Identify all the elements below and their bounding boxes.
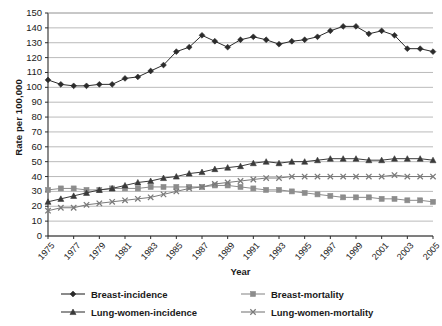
data-point-marker-diamond xyxy=(417,46,423,52)
data-point-marker-square xyxy=(174,184,179,189)
legend-label: Lung-women-incidence xyxy=(91,307,197,318)
series-lung-women-mortality xyxy=(45,172,435,213)
data-point-marker-square xyxy=(379,196,384,201)
data-point-marker-square xyxy=(161,184,166,189)
data-point-marker-diamond xyxy=(84,83,90,89)
data-point-marker-diamond xyxy=(430,49,436,55)
data-point-marker-square xyxy=(289,189,294,194)
x-axis-title: Year xyxy=(48,266,433,277)
data-point-marker-diamond xyxy=(353,23,359,29)
series-lung-women-incidence xyxy=(45,156,436,205)
data-point-marker-square xyxy=(341,195,346,200)
legend-item-lung-women-mortality[interactable]: Lung-women-mortality xyxy=(240,306,420,318)
data-point-marker-diamond xyxy=(122,76,128,82)
data-point-marker-diamond xyxy=(340,23,346,29)
data-point-marker-diamond xyxy=(225,44,231,50)
legend-marker-x-icon xyxy=(240,306,266,318)
data-point-marker-diamond xyxy=(96,81,102,87)
series-breast-mortality xyxy=(46,183,436,204)
data-point-marker-square xyxy=(302,190,307,195)
plot-area xyxy=(0,0,442,326)
data-point-marker-square xyxy=(148,184,153,189)
data-point-marker-square xyxy=(405,198,410,203)
data-point-marker-diamond xyxy=(327,28,333,34)
data-point-marker-diamond xyxy=(212,38,218,44)
data-point-marker-square xyxy=(328,193,333,198)
data-point-marker-diamond xyxy=(289,38,295,44)
legend-marker-triangle-icon xyxy=(60,306,86,318)
data-point-marker-diamond xyxy=(379,28,385,34)
series-line xyxy=(48,26,433,85)
data-point-marker-diamond xyxy=(58,81,64,87)
chart-container: Rate per 100,000 15014013012011010090807… xyxy=(0,0,442,326)
legend-item-lung-women-incidence[interactable]: Lung-women-incidence xyxy=(60,306,240,318)
data-point-marker-square xyxy=(71,186,76,191)
data-point-marker-diamond xyxy=(263,37,269,43)
series-breast-incidence xyxy=(45,23,436,88)
data-point-marker-square xyxy=(366,195,371,200)
legend-item-breast-incidence[interactable]: Breast-incidence xyxy=(60,288,240,300)
data-point-marker-diamond xyxy=(250,34,256,40)
chart-legend: Breast-incidence Breast-mortality Lung-w… xyxy=(60,288,420,318)
data-point-marker-square xyxy=(431,199,436,204)
data-point-marker-square xyxy=(392,196,397,201)
data-point-marker-square xyxy=(251,292,256,297)
data-point-marker-square xyxy=(264,187,269,192)
data-point-marker-square xyxy=(277,187,282,192)
data-point-marker-diamond xyxy=(148,68,154,74)
data-point-marker-square xyxy=(315,192,320,197)
data-point-marker-diamond xyxy=(71,83,77,89)
legend-label: Breast-incidence xyxy=(91,289,168,300)
data-point-marker-diamond xyxy=(366,31,372,37)
data-point-marker-square xyxy=(251,186,256,191)
legend-label: Lung-women-mortality xyxy=(271,307,373,318)
data-point-marker-square xyxy=(46,187,51,192)
legend-label: Breast-mortality xyxy=(271,289,344,300)
legend-item-breast-mortality[interactable]: Breast-mortality xyxy=(240,288,420,300)
data-point-marker-diamond xyxy=(45,77,51,83)
data-point-marker-square xyxy=(135,186,140,191)
data-point-marker-diamond xyxy=(238,37,244,43)
data-point-marker-diamond xyxy=(276,41,282,47)
data-point-marker-diamond xyxy=(135,74,141,80)
data-point-marker-diamond xyxy=(302,37,308,43)
data-point-marker-diamond xyxy=(70,291,76,297)
data-point-marker-diamond xyxy=(109,81,115,87)
data-point-marker-square xyxy=(238,184,243,189)
data-point-marker-square xyxy=(58,186,63,191)
legend-marker-diamond-icon xyxy=(60,288,86,300)
data-point-marker-square xyxy=(418,198,423,203)
legend-marker-square-icon xyxy=(240,288,266,300)
data-point-marker-diamond xyxy=(315,34,321,40)
data-point-marker-square xyxy=(354,195,359,200)
